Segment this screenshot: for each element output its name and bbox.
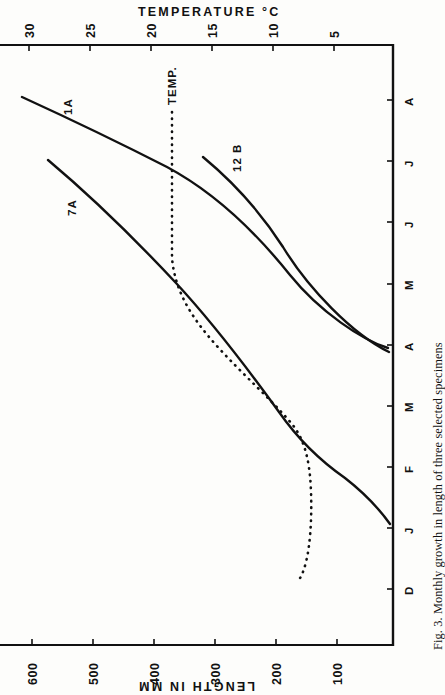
- temp-tick-5: 5: [329, 31, 342, 38]
- temp-tick-20: 20: [146, 23, 159, 38]
- length-axis-title: LENGTH IN MM: [137, 680, 255, 693]
- temp-tick-15: 15: [207, 23, 220, 38]
- curve-label-1a: 1A: [63, 98, 75, 115]
- temp-tick-10: 10: [268, 23, 281, 38]
- month-label-j-jan: J: [404, 528, 416, 534]
- temp-tick-25: 25: [85, 23, 98, 38]
- temp-tick-30: 30: [24, 23, 37, 38]
- length-tick-600: 600: [27, 663, 40, 685]
- curve-12b: [203, 157, 389, 352]
- month-label-f-feb: F: [404, 466, 416, 473]
- axis-frame: [0, 44, 394, 646]
- temperature-axis-title: TEMPERATURE °C: [138, 6, 281, 19]
- month-label-j-jul: J: [404, 161, 416, 167]
- curve-label-temp: TEMP.: [167, 66, 179, 105]
- length-tick-200: 200: [271, 663, 284, 685]
- month-label-d-dec: D: [404, 587, 416, 595]
- month-label-m-mar: M: [404, 402, 416, 412]
- curve-7a: [48, 160, 390, 524]
- month-label-m-may: M: [404, 280, 416, 290]
- month-label-a-aug: A: [404, 98, 416, 106]
- curve-label-12b: 12 B: [232, 144, 244, 172]
- length-tick-100: 100: [332, 663, 345, 685]
- month-label-a-apr: A: [404, 343, 416, 351]
- figure-caption: Fig. 3. Monthly growth in length of thre…: [432, 342, 444, 650]
- length-tick-500: 500: [88, 663, 101, 685]
- month-label-j-jun: J: [404, 222, 416, 228]
- curve-label-7a: 7A: [67, 199, 79, 216]
